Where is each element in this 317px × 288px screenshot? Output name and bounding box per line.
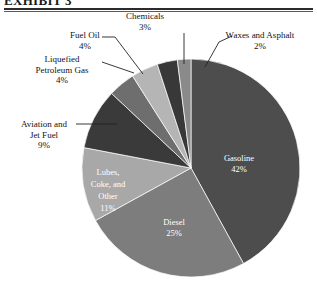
slice-label-lubes-pct: 11% <box>100 203 115 213</box>
slice-label-lubes-line2: Coke, and <box>91 179 126 189</box>
slice-label-gasoline-pct: 42% <box>231 164 247 174</box>
callout-waxes-pct: 2% <box>205 41 315 52</box>
callout-fuel-oil-pct: 4% <box>55 41 115 52</box>
slice-label-diesel-pct: 25% <box>166 228 182 238</box>
callout-aviation-pct: 9% <box>2 140 86 151</box>
slice-label-gasoline-name: Gasoline <box>224 153 254 163</box>
callout-chemicals-pct: 3% <box>106 22 184 33</box>
callout-lpg-pct: 4% <box>16 75 108 86</box>
slice-label-lubes-line3: Other <box>98 191 118 201</box>
callout-fuel-oil-name: Fuel Oil <box>70 30 100 40</box>
callout-chemicals-name: Chemicals <box>126 11 164 21</box>
slice-label-lubes-line1: Lubes, <box>97 167 120 177</box>
callout-lpg-line2: Petroleum Gas <box>16 65 108 76</box>
callout-aviation-and-jet-fuel: Aviation and Jet Fuel 9% <box>2 119 86 151</box>
exhibit-figure: EXHIBIT 3 Gasoline 42% Diesel 25% <box>0 0 317 288</box>
callout-aviation-line1: Aviation and <box>21 119 67 129</box>
callout-lpg-line1: Liquefied <box>45 54 80 64</box>
callout-waxes-name: Waxes and Asphalt <box>226 30 295 40</box>
callout-chemicals: Chemicals 3% <box>106 11 184 32</box>
callout-liquefied-petroleum-gas: Liquefied Petroleum Gas 4% <box>16 54 108 86</box>
slice-label-diesel-name: Diesel <box>163 217 185 227</box>
callout-aviation-line2: Jet Fuel <box>2 130 86 141</box>
callout-fuel-oil: Fuel Oil 4% <box>55 30 115 51</box>
callout-waxes-and-asphalt: Waxes and Asphalt 2% <box>205 30 315 51</box>
